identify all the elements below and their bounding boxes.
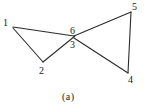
edge-5-4: [128, 12, 131, 73]
node-label-5: 5: [132, 2, 137, 12]
node-label-4: 4: [128, 75, 133, 85]
figure-caption: (a): [62, 92, 75, 102]
node-label-1: 1: [3, 18, 8, 28]
node-label-6: 6: [70, 26, 75, 36]
edge-1-6: [13, 27, 74, 36]
figure-container: 1 2 6 3 5 4 (a): [0, 0, 144, 109]
edge-6-5: [74, 12, 131, 36]
node-label-3: 3: [70, 40, 75, 50]
edge-3-4: [74, 38, 128, 73]
edge-1-2: [13, 28, 43, 62]
node-label-2: 2: [39, 66, 44, 76]
